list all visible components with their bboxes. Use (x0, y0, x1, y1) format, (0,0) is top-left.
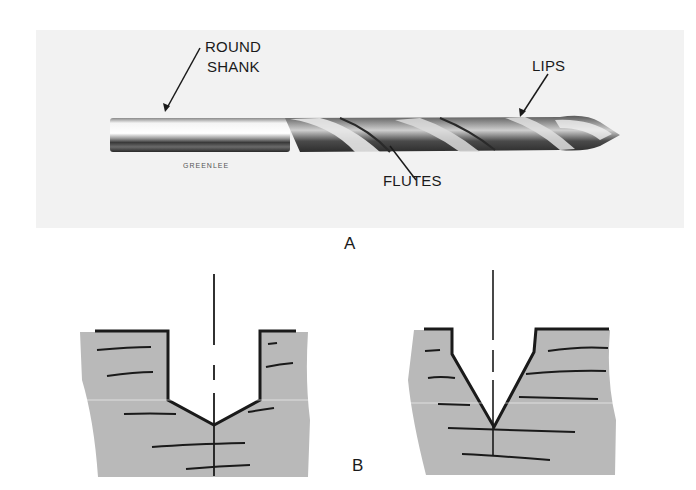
round-shank-leader (167, 48, 200, 108)
drill-bit-icon (110, 116, 620, 152)
callout-shank: SHANK (207, 58, 260, 75)
panel-label-b: B (352, 456, 363, 476)
hole-profile-left (60, 274, 312, 477)
callout-lips: LIPS (532, 57, 565, 74)
brand-text: GREENLEE (183, 157, 229, 174)
callout-flutes: FLUTES (383, 172, 442, 189)
callout-round: ROUND (205, 38, 261, 55)
hole-profile-right (380, 270, 620, 475)
lips-leader (522, 74, 548, 114)
panel-label-a: A (344, 234, 355, 254)
